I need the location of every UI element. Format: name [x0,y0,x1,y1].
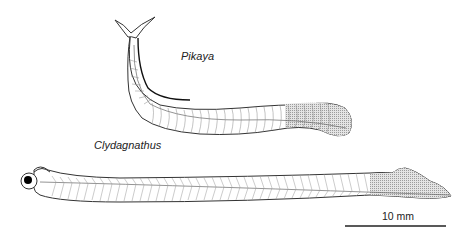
pikaya-label: Pikaya [181,50,214,62]
clydagnathus-label: Clydagnathus [94,139,161,151]
pikaya-drawing [115,17,352,136]
illustration [0,0,471,232]
scale-bar-label: 10 mm [382,210,414,222]
pikaya-tentacles-icon [115,17,155,38]
figure: Pikaya Clydagnathus 10 mm [0,0,471,232]
clydagnathus-drawing [21,167,451,202]
